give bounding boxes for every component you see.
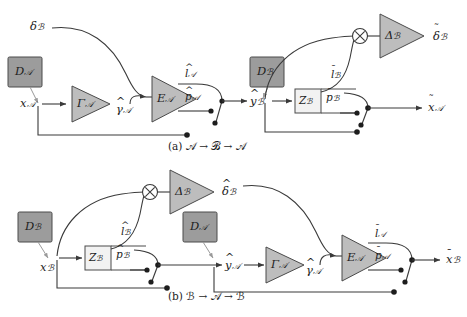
- row-b-input-sub: ℬ: [47, 263, 54, 273]
- row-a-l-hat-base: l: [185, 67, 188, 79]
- row-a-tri-gamma-sub: 𝒜: [85, 99, 93, 109]
- row-b-switch1-pivot-dot: [148, 279, 153, 284]
- row-a-gamma-hat-sub: 𝒜: [123, 105, 131, 115]
- row-a-tri-ea-label: E𝒜: [157, 93, 173, 105]
- row-a-tri-gamma-base: Γ: [77, 96, 85, 110]
- row-b-delta-curve: [243, 185, 336, 256]
- row-b-da-pointer: [203, 242, 213, 258]
- row-b-l-bar-sub: 𝒜: [378, 229, 386, 239]
- row-a-p-hat-label: ^p𝒜: [185, 91, 200, 102]
- row-a-phat-terminal-dot: [208, 108, 213, 113]
- row-a-delta-out-label: ˜δℬ: [433, 31, 447, 43]
- row-a-tri-gamma-label: Γ𝒜: [77, 98, 93, 110]
- caption-b: (b) ℬ → 𝒜 → ℬ: [168, 290, 245, 303]
- row-a-output-base: x: [428, 100, 435, 114]
- row-b-box-da-base: D: [190, 219, 199, 233]
- row-b-l-hat-base: l: [121, 225, 124, 237]
- row-b-box-da-sub: 𝒜: [199, 222, 207, 232]
- row-b-y-hat-label: ^y𝒜: [225, 260, 240, 272]
- row-a-delta-in-label: δℬ: [30, 21, 44, 33]
- row-b-phat-terminal-dot: [144, 267, 149, 272]
- row-a-lbar-to-cross: [321, 40, 354, 92]
- row-a-tri-delta-sub: ℬ: [393, 31, 400, 41]
- row-b-box-db-base: D: [25, 219, 34, 233]
- row-b-p-hat-sub: ℬ: [123, 250, 129, 260]
- caption-a: (a) 𝒜 → ℬ → 𝒜: [168, 140, 246, 153]
- row-b-l-bar-label: ¯l𝒜: [375, 228, 386, 239]
- row-a-skip-right-dot: [354, 129, 360, 135]
- row-a-l-bar-base: l: [331, 68, 334, 80]
- row-a-tri-delta-label: Δℬ: [385, 30, 400, 42]
- row-b-gamma-hook: [320, 255, 332, 265]
- row-a-p-hat-sub: 𝒜: [192, 92, 200, 102]
- row-b-box-db-sub: ℬ: [34, 222, 41, 232]
- row-a-y-hat-sub: ℬ: [257, 97, 264, 107]
- row-a-pbar-terminal-dot: [354, 110, 359, 115]
- row-b-output-sub: ℬ: [453, 255, 460, 265]
- row-b-p-bar-base: p: [375, 249, 382, 261]
- row-a-p-hat-base: p: [185, 90, 192, 102]
- row-b-skip-right-dot: [391, 289, 397, 295]
- row-a-input-sub: 𝒜: [27, 99, 35, 109]
- row-b-lhat-to-cross: [111, 196, 144, 249]
- row-b-tri-delta-label: Δℬ: [175, 186, 190, 198]
- row-a-output-label: ˜x𝒜: [428, 102, 443, 114]
- row-b-gamma-hat-label: ^γ𝒜: [306, 265, 321, 277]
- row-a-y-hat-base: y: [250, 94, 257, 108]
- row-a-box-da-label: D𝒜: [15, 66, 32, 78]
- row-b-delta-out-base: δ: [222, 184, 229, 198]
- row-a-gamma-hat-base: γ: [116, 102, 123, 116]
- row-b-p-bar-sub: 𝒜: [382, 251, 390, 261]
- row-a-switch-pivot-dot: [212, 120, 217, 125]
- row-b-switch-blade-2: [406, 260, 412, 281]
- row-a-box-da-base: D: [15, 64, 24, 78]
- row-b-tri-gamma-label: Γ𝒜: [271, 259, 287, 271]
- row-a-output-sub: 𝒜: [435, 103, 443, 113]
- row-a-skip-dot: [184, 132, 190, 138]
- row-b-gamma-hat-sub: 𝒜: [313, 266, 321, 276]
- row-a-box-da-sub: 𝒜: [24, 67, 32, 77]
- row-a-lbar-down-curve: [344, 93, 368, 108]
- row-b-gamma-hat-base: γ: [306, 263, 313, 277]
- row-b-output-label: ¯xℬ: [446, 254, 460, 266]
- row-a-delta-in-base: δ: [30, 19, 37, 33]
- row-b-l-hat-sub: ℬ: [124, 227, 130, 237]
- row-a-p-bar-label: ¯pℬ: [326, 92, 339, 103]
- row-a-delta-curve: [52, 27, 146, 97]
- row-a-box-zb-label: Zℬ: [299, 95, 312, 106]
- row-b-y-hat-base: y: [225, 258, 232, 272]
- row-b-tri-gamma-base: Γ: [271, 257, 279, 271]
- row-a-y-hat-label: ^yℬ: [250, 96, 264, 108]
- row-b-l-hat-label: ^lℬ: [121, 226, 130, 237]
- row-b-tri-delta-sub: ℬ: [183, 187, 190, 197]
- row-a-l-hat-label: ^l𝒜: [185, 68, 196, 79]
- figure-canvas: δℬ D𝒜 x𝒜 Γ𝒜 ^γ𝒜 E𝒜 ^l𝒜 ^p𝒜 ^yℬ Dℬ Zℬ ¯lℬ…: [0, 0, 467, 317]
- row-b-l-bar-base: l: [375, 227, 378, 239]
- row-a-box-db-base: D: [257, 64, 266, 78]
- row-b-tri-gamma-sub: 𝒜: [279, 260, 287, 270]
- row-a-switch2-pivot-dot: [358, 122, 363, 127]
- row-b-delta-out-label: ^δℬ: [222, 186, 236, 198]
- row-b-delta-out-sub: ℬ: [229, 187, 236, 197]
- row-a-input-label: x𝒜: [20, 98, 35, 110]
- row-b-db-pointer: [38, 242, 48, 258]
- row-b-output-base: x: [446, 252, 453, 266]
- row-a-delta-in-sub: ℬ: [37, 22, 44, 32]
- row-a-p-bar-sub: ℬ: [333, 93, 339, 103]
- row-a-gamma-hook: [130, 96, 142, 104]
- row-b-y-hat-sub: 𝒜: [232, 261, 240, 271]
- row-a-box-db-sub: ℬ: [266, 67, 273, 77]
- row-a-box-zb-sub: ℬ: [306, 96, 312, 106]
- row-b-p-hat-label: ^pℬ: [116, 249, 129, 260]
- row-b-box-da-label: D𝒜: [190, 221, 207, 233]
- row-a-box-db-label: Dℬ: [257, 66, 273, 78]
- row-b-tri-ea-sub: 𝒜: [355, 253, 363, 263]
- row-b-p-hat-base: p: [116, 248, 123, 260]
- row-a-switch-blade-1: [216, 101, 222, 122]
- row-a-l-bar-label: ¯lℬ: [331, 69, 340, 80]
- row-a-l-bar-sub: ℬ: [334, 70, 340, 80]
- row-b-p-bar-label: ¯p𝒜: [375, 250, 390, 261]
- row-b-switch2-pivot-dot: [402, 279, 407, 284]
- row-a-tri-ea-sub: 𝒜: [165, 94, 173, 104]
- row-b-box-db-label: Dℬ: [25, 221, 41, 233]
